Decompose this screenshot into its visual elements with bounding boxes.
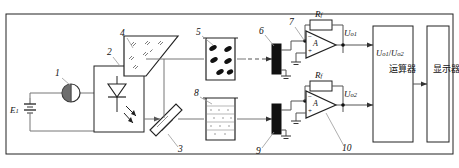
diagram-canvas: E1 1 2 3 4 5 6 7 8 9 10 Rf Rf A A − + − … xyxy=(0,0,459,168)
callout-leader-lines xyxy=(62,27,344,148)
processor-block-outline xyxy=(373,26,413,142)
opamp-upper-plus-sign: + xyxy=(308,47,312,55)
processor-formula: Uo1/Uo2 xyxy=(376,48,404,58)
callout-9: 9 xyxy=(256,146,261,156)
schematic-vector-layer xyxy=(0,0,459,168)
opamp-upper-stage xyxy=(291,20,373,65)
opamp-upper-minus-sign: − xyxy=(308,33,312,41)
callout-1: 1 xyxy=(55,68,60,78)
source-label: E1 xyxy=(10,105,19,115)
opamp-lower-symbol: A xyxy=(313,99,318,108)
processor-block-label: 运算器 xyxy=(389,64,400,75)
photodetector-upper xyxy=(272,41,291,79)
opamp-lower-minus-sign: − xyxy=(308,93,312,101)
processor-to-display-arrow xyxy=(413,82,427,87)
feedback-resistor-lower-label: Rf xyxy=(315,70,322,80)
prism-reflector xyxy=(124,36,178,76)
photodetector-lower xyxy=(272,101,291,139)
sample-cuvette xyxy=(203,38,238,80)
reference-cuvette xyxy=(203,98,238,140)
callout-3: 3 xyxy=(178,144,183,154)
callout-5: 5 xyxy=(196,27,201,37)
output-lower-label: Uo2 xyxy=(344,89,357,99)
callout-10: 10 xyxy=(342,143,352,153)
callout-6: 6 xyxy=(259,26,264,36)
output-upper-label: Uo1 xyxy=(344,28,357,38)
meter-element xyxy=(62,84,80,102)
opamp-lower-plus-sign: + xyxy=(308,107,312,115)
battery-symbol xyxy=(24,98,36,113)
display-block-outline xyxy=(427,26,449,142)
callout-2: 2 xyxy=(107,47,112,57)
feedback-resistor-upper-label: Rf xyxy=(315,9,322,19)
display-block-label: 显示器 xyxy=(433,64,444,75)
callout-7: 7 xyxy=(289,17,294,27)
callout-8: 8 xyxy=(194,88,199,98)
opamp-upper-symbol: A xyxy=(313,39,318,48)
source-loop-wiring xyxy=(30,93,94,131)
opamp-lower-stage xyxy=(291,81,373,124)
callout-4: 4 xyxy=(120,28,125,38)
